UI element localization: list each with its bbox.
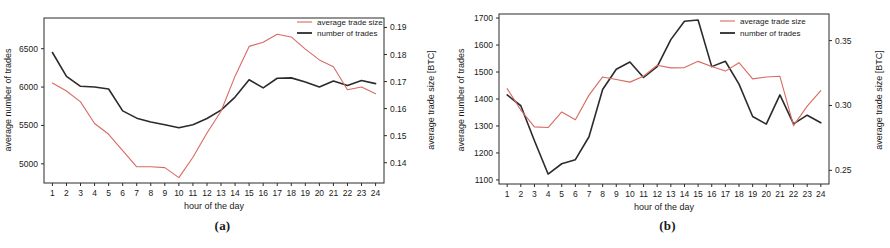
x-tick-label: 12 xyxy=(652,189,662,199)
plot-frame-a xyxy=(44,18,384,183)
x-tick-label: 16 xyxy=(707,189,717,199)
x-tick-label: 23 xyxy=(802,189,812,199)
legend-label-number-of-trades-b: number of trades xyxy=(740,29,800,38)
y-tick-label-right: 0.17 xyxy=(390,77,407,87)
x-tick-label: 19 xyxy=(748,189,758,199)
series-lines-b xyxy=(507,20,821,174)
x-tick-label: 24 xyxy=(816,189,826,199)
legend-label-number-of-trades-a: number of trades xyxy=(317,29,377,38)
legend-label-average-trade-size-b: average trade size xyxy=(740,17,806,26)
x-tick-label: 22 xyxy=(343,188,353,198)
x-tick-label: 24 xyxy=(371,188,381,198)
panel-b-plot: 1100120013001400150016001700 0.250.300.3… xyxy=(445,0,890,215)
x-tick-label: 9 xyxy=(614,189,619,199)
x-tick-label: 22 xyxy=(789,189,799,199)
y-tick-label-left: 6000 xyxy=(19,82,38,92)
chart-b-svg: 1100120013001400150016001700 0.250.300.3… xyxy=(445,0,890,215)
y-tick-label-right: 0.14 xyxy=(390,158,407,168)
x-tick-label: 13 xyxy=(216,188,226,198)
y-tick-label-left: 1600 xyxy=(474,40,493,50)
x-tick-label: 3 xyxy=(78,188,83,198)
x-tick-label: 20 xyxy=(315,188,325,198)
panel-a: 5000550060006500 0.140.150.160.170.180.1… xyxy=(0,0,445,248)
y-tick-label-left: 1500 xyxy=(474,67,493,77)
series-number-of-trades xyxy=(507,20,821,174)
x-tick-label: 8 xyxy=(148,188,153,198)
y-tick-label-left: 1400 xyxy=(474,94,493,104)
legend-b: average trade size number of trades xyxy=(720,17,806,38)
y-tick-label-left: 1100 xyxy=(475,175,494,185)
x-tick-label: 17 xyxy=(272,188,282,198)
y-axis-left-ticks-b: 1100120013001400150016001700 xyxy=(474,13,499,185)
panel-a-caption: (a) xyxy=(0,218,445,234)
panel-b: 1100120013001400150016001700 0.250.300.3… xyxy=(445,0,890,248)
y-axis-right-title-b: average trade size [BTC] xyxy=(874,50,884,150)
x-tick-label: 2 xyxy=(518,189,523,199)
x-tick-label: 13 xyxy=(666,189,676,199)
x-tick-label: 1 xyxy=(505,189,510,199)
x-tick-label: 10 xyxy=(625,189,635,199)
x-tick-label: 11 xyxy=(639,189,648,199)
y-axis-left-ticks-a: 5000550060006500 xyxy=(19,44,44,169)
chart-a-svg: 5000550060006500 0.140.150.160.170.180.1… xyxy=(0,0,445,215)
y-tick-label-left: 5000 xyxy=(19,159,38,169)
y-axis-right-title-a: average trade size [BTC] xyxy=(426,50,436,150)
x-tick-label: 12 xyxy=(202,188,212,198)
x-tick-label: 15 xyxy=(244,188,254,198)
x-tick-label: 3 xyxy=(532,189,537,199)
y-tick-label-left: 1200 xyxy=(474,148,493,158)
x-tick-label: 1 xyxy=(50,188,55,198)
series-average-trade-size xyxy=(52,34,375,177)
y-tick-label-right: 0.35 xyxy=(835,36,852,46)
x-tick-label: 8 xyxy=(600,189,605,199)
y-axis-right-ticks-a: 0.140.150.160.170.180.19 xyxy=(384,22,407,167)
x-tick-label: 7 xyxy=(587,189,592,199)
x-tick-label: 4 xyxy=(92,188,97,198)
x-axis-title-b: hour of the day xyxy=(634,202,695,212)
series-average-trade-size xyxy=(507,61,821,127)
x-tick-label: 9 xyxy=(162,188,167,198)
x-tick-label: 21 xyxy=(329,188,339,198)
x-tick-label: 15 xyxy=(693,189,703,199)
y-axis-left-title-b: average number of trades xyxy=(456,48,466,152)
y-tick-label-right: 0.18 xyxy=(390,50,407,60)
x-tick-label: 5 xyxy=(559,189,564,199)
x-tick-label: 18 xyxy=(287,188,297,198)
x-tick-label: 21 xyxy=(775,189,785,199)
x-tick-label: 6 xyxy=(120,188,125,198)
y-tick-label-right: 0.30 xyxy=(835,100,852,110)
y-tick-label-right: 0.25 xyxy=(835,165,852,175)
x-tick-label: 4 xyxy=(546,189,551,199)
x-tick-label: 14 xyxy=(680,189,690,199)
plot-frame-b xyxy=(499,14,829,184)
x-tick-label: 5 xyxy=(106,188,111,198)
y-tick-label-right: 0.15 xyxy=(390,131,407,141)
x-tick-label: 11 xyxy=(189,188,198,198)
x-tick-label: 20 xyxy=(762,189,772,199)
x-tick-label: 17 xyxy=(721,189,731,199)
x-tick-label: 19 xyxy=(301,188,311,198)
figure-container: 5000550060006500 0.140.150.160.170.180.1… xyxy=(0,0,890,248)
y-tick-label-left: 5500 xyxy=(19,120,38,130)
x-axis-ticks-a: 123456789101112131415161718192021222324 xyxy=(50,183,381,198)
x-tick-label: 2 xyxy=(64,188,69,198)
x-tick-label: 14 xyxy=(230,188,240,198)
y-axis-right-ticks-b: 0.250.300.35 xyxy=(829,36,852,176)
legend-a: average trade size number of trades xyxy=(297,18,383,38)
y-tick-label-left: 6500 xyxy=(19,44,38,54)
y-tick-label-right: 0.16 xyxy=(390,104,407,114)
x-tick-label: 23 xyxy=(357,188,367,198)
x-tick-label: 6 xyxy=(573,189,578,199)
x-tick-label: 7 xyxy=(134,188,139,198)
y-tick-label-left: 1700 xyxy=(474,13,493,23)
x-tick-label: 16 xyxy=(258,188,268,198)
legend-label-average-trade-size-a: average trade size xyxy=(317,18,383,27)
y-tick-label-right: 0.19 xyxy=(390,22,407,32)
y-axis-left-title-a: average number of trades xyxy=(3,48,13,152)
x-axis-title-a: hour of the day xyxy=(184,201,245,211)
panel-b-caption: (b) xyxy=(445,218,890,234)
x-tick-label: 10 xyxy=(174,188,184,198)
panel-a-plot: 5000550060006500 0.140.150.160.170.180.1… xyxy=(0,0,445,215)
x-tick-label: 18 xyxy=(734,189,744,199)
series-lines-a xyxy=(52,34,375,177)
